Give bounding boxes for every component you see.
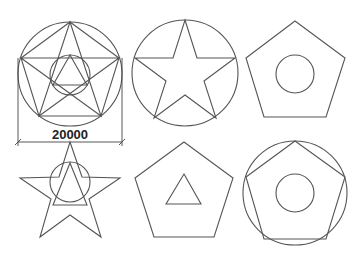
star <box>20 142 120 237</box>
outer-circle <box>243 141 347 245</box>
inner-circle <box>50 162 90 202</box>
figure-6-pentagon-in-circle <box>243 141 347 245</box>
figure-3-pentagon-with-circle <box>246 21 345 117</box>
star <box>135 20 235 118</box>
pentagram <box>21 22 119 116</box>
figure-4-star-circle-triangle <box>20 142 120 237</box>
circle <box>132 20 238 126</box>
pentagon <box>246 141 345 239</box>
inner-circle <box>276 174 314 212</box>
geometry-diagram: 20000 <box>0 0 363 266</box>
pentagon <box>135 142 233 237</box>
figure-5-pentagon-with-triangle <box>135 142 233 237</box>
outer-circle <box>18 22 122 126</box>
figure-2-star-in-circle <box>132 20 238 126</box>
inner-circle <box>50 55 90 95</box>
dimension-label: 20000 <box>52 127 88 142</box>
figure-1-star-pentagon-circle: 20000 <box>15 22 125 146</box>
pentagon <box>246 21 345 117</box>
inner-circle <box>276 55 314 93</box>
inner-triangle <box>166 174 201 204</box>
